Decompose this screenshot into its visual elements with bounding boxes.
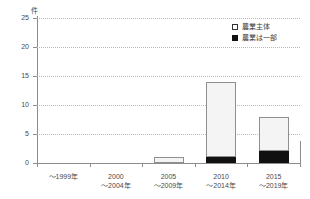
y-tick-label: 0 [25, 159, 29, 166]
x-tick-label-line: 〜2009年 [142, 181, 195, 190]
x-tick-label-line: 2010 [195, 172, 248, 181]
y-tick-label: 15 [21, 72, 29, 79]
x-tick-label-line: 2015 [247, 172, 300, 181]
legend-label-1: 農業は一部 [242, 33, 277, 42]
legend-label-0: 農業主体 [242, 22, 270, 31]
x-tick-label-line: 〜2004年 [90, 181, 143, 190]
x-tick-mark [300, 163, 301, 167]
x-tick-label-line: 〜1999年 [37, 172, 90, 181]
x-tick-mark [90, 163, 91, 167]
legend-item-0[interactable]: 農業主体 [232, 22, 277, 31]
bar-segment-white[interactable] [154, 157, 184, 163]
x-tick-label-line: 〜2014年 [195, 181, 248, 190]
legend-swatch-white-icon [232, 24, 238, 30]
legend: 農業主体 農業は一部 [232, 22, 277, 44]
legend-item-1[interactable]: 農業は一部 [232, 33, 277, 42]
x-tick-label: 2010〜2014年 [195, 172, 248, 190]
bar-chart: 件 0510152025 〜1999年2000〜2004年2005〜2009年2… [0, 0, 310, 199]
y-tick-label: 20 [21, 43, 29, 50]
x-tick-label: 〜1999年 [37, 172, 90, 181]
bar-segment-white[interactable] [206, 82, 236, 157]
x-tick-mark [142, 163, 143, 167]
bar-segment-white[interactable] [259, 117, 289, 152]
x-tick-mark [37, 163, 38, 167]
x-tick-label-line: 2000 [90, 172, 143, 181]
y-tick-label: 25 [21, 14, 29, 21]
x-tick-mark [195, 163, 196, 167]
y-axis-unit-label: 件 [31, 7, 38, 14]
bar-segment-black[interactable] [206, 157, 236, 163]
x-axis-line [37, 163, 301, 164]
x-tick-label-line: 〜2019年 [247, 181, 300, 190]
x-tick-mark [247, 163, 248, 167]
bar-group[interactable] [206, 82, 236, 163]
bar-segment-black[interactable] [259, 151, 289, 163]
legend-swatch-black-icon [232, 35, 238, 41]
x-tick-label: 2015〜2019年 [247, 172, 300, 190]
x-tick-label: 2005〜2009年 [142, 172, 195, 190]
x-tick-label-line: 2005 [142, 172, 195, 181]
bar-group[interactable] [154, 157, 184, 163]
right-axis-line [300, 141, 301, 164]
y-tick-label: 10 [21, 101, 29, 108]
bar-group[interactable] [259, 117, 289, 163]
x-tick-label: 2000〜2004年 [90, 172, 143, 190]
y-tick-label: 5 [25, 130, 29, 137]
